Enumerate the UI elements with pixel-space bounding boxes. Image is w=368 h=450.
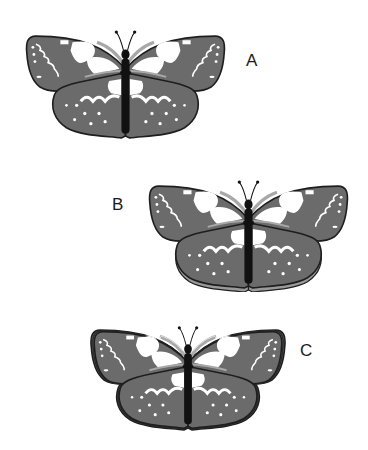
right-wings — [126, 36, 225, 138]
right-wings — [188, 332, 282, 428]
label-c: C — [300, 342, 312, 359]
butterfly-b — [146, 178, 351, 292]
butterfly-a — [23, 28, 228, 142]
right-wings — [249, 186, 348, 288]
left-wings — [150, 186, 249, 288]
left-wings — [27, 36, 126, 138]
butterfly-c — [90, 324, 286, 432]
label-b: B — [112, 196, 123, 213]
label-a: A — [246, 52, 257, 69]
left-wings — [94, 332, 188, 428]
